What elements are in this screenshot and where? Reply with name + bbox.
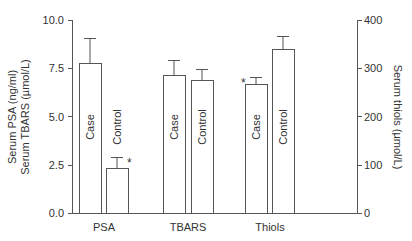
category-labels: PSA TBARS Thiols <box>93 221 285 233</box>
svg-text:Case: Case <box>168 114 180 140</box>
right-y-axis-label: Serum thiols (µmol/L) <box>392 65 404 170</box>
svg-text:Serum PSA (ng/ml): Serum PSA (ng/ml) <box>6 70 18 164</box>
svg-text:400: 400 <box>364 14 382 26</box>
left-tick-labels: 10.0 7.5 5.0 2.5 0.0 <box>43 14 64 219</box>
bar-tbars-control <box>192 81 214 214</box>
significance-marker-thiols-case: * <box>241 76 246 90</box>
svg-text:100: 100 <box>364 159 382 171</box>
svg-text:TBARS: TBARS <box>170 221 207 233</box>
svg-text:Serum TBARS (µmol/L): Serum TBARS (µmol/L) <box>19 59 31 175</box>
right-tick-labels: 400 300 200 100 0 <box>364 14 382 219</box>
bar-tbars-case <box>164 76 186 214</box>
svg-text:Control: Control <box>277 109 289 144</box>
svg-text:2.5: 2.5 <box>49 159 64 171</box>
significance-marker-psa-control: * <box>127 156 132 170</box>
svg-text:Thiols: Thiols <box>255 221 285 233</box>
svg-text:10.0: 10.0 <box>43 14 64 26</box>
bar-chart: 10.0 7.5 5.0 2.5 0.0 400 300 200 100 0 S… <box>0 0 412 241</box>
svg-text:200: 200 <box>364 111 382 123</box>
svg-text:5.0: 5.0 <box>49 111 64 123</box>
svg-text:0.0: 0.0 <box>49 207 64 219</box>
bar-labels: Case Control Case Control Case Control <box>84 109 289 144</box>
bar-psa-control <box>107 169 129 214</box>
svg-text:7.5: 7.5 <box>49 62 64 74</box>
svg-text:Control: Control <box>196 109 208 144</box>
svg-text:300: 300 <box>364 62 382 74</box>
svg-text:Case: Case <box>84 114 96 140</box>
bar-thiols-case <box>246 85 268 214</box>
svg-text:PSA: PSA <box>93 221 116 233</box>
left-y-axis-label: Serum PSA (ng/ml) Serum TBARS (µmol/L) <box>6 59 31 175</box>
svg-text:0: 0 <box>364 207 370 219</box>
svg-text:Control: Control <box>111 109 123 144</box>
svg-text:Case: Case <box>250 114 262 140</box>
